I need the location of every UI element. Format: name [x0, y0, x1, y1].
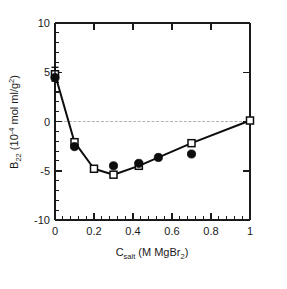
data-point-filled-circle: [187, 150, 195, 158]
data-point-open-square: [91, 165, 98, 172]
y-tick-label: 5: [44, 66, 50, 78]
x-tick-label: 1: [247, 225, 253, 237]
y-axis-tick-labels: 10 5 0 -5 -10: [34, 17, 50, 226]
x-axis-title-c: C: [116, 246, 124, 258]
data-point-open-square: [188, 140, 195, 147]
x-axis-title-close: ): [185, 246, 189, 258]
y-axis-title-b: B: [8, 162, 20, 169]
y-axis-title-open: (10: [8, 134, 20, 153]
x-axis-title-units: (M MgBr: [135, 246, 181, 258]
x-tick-label: 0.6: [164, 225, 179, 237]
x-tick-label: 0.8: [203, 225, 218, 237]
y-tick-label: 0: [44, 116, 50, 128]
x-axis-title: Csalt (M MgBr2): [116, 246, 189, 261]
x-axis-tick-labels: 0 0.2 0.4 0.6 0.8 1: [52, 225, 253, 237]
data-point-open-square: [247, 117, 254, 124]
data-point-open-square: [110, 171, 117, 178]
data-point-filled-circle: [154, 153, 162, 161]
scatter-line-chart: 10 5 0 -5 -10 0 0.2 0.4 0.6 0.8 1 Csalt …: [0, 0, 287, 289]
data-point-filled-circle: [70, 143, 78, 151]
y-axis-title-sub-22: 22: [14, 153, 23, 161]
x-tick-label: 0.4: [125, 225, 140, 237]
y-axis-title: B22 (10-4 mol ml/g2): [7, 75, 23, 169]
x-tick-label: 0: [52, 225, 58, 237]
y-tick-label: -5: [40, 165, 50, 177]
figure-container: 10 5 0 -5 -10 0 0.2 0.4 0.6 0.8 1 Csalt …: [0, 0, 287, 289]
data-point-filled-circle: [109, 162, 117, 170]
y-tick-label: 10: [38, 17, 50, 29]
y-axis-title-sup-minus4: -4: [7, 128, 16, 135]
x-tick-label: 0.2: [86, 225, 101, 237]
y-axis-title-close: ): [8, 75, 20, 79]
y-tick-label: -10: [34, 214, 50, 226]
y-axis-title-units: mol ml/g: [8, 83, 20, 128]
data-point-filled-circle: [135, 159, 143, 167]
